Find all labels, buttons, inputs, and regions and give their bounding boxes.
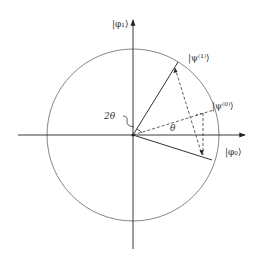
origin-dot — [132, 134, 135, 137]
psi0-label: |ψ⁽⁰⁾⟩ — [212, 102, 234, 111]
theta-label: θ — [170, 124, 175, 133]
reflection-dashed-line — [175, 68, 202, 155]
rotation-diagram — [0, 0, 260, 262]
two-theta-pointer — [123, 116, 134, 127]
phi1-label: |φ₁⟩ — [112, 20, 128, 29]
reflected-vector — [133, 135, 212, 160]
phi0-label: |φ₀⟩ — [225, 148, 241, 157]
two-theta-arc — [137, 129, 142, 133]
psi1-label: |ψ⁽¹⁾⟩ — [188, 54, 210, 63]
two-theta-label: 2θ — [104, 112, 115, 121]
